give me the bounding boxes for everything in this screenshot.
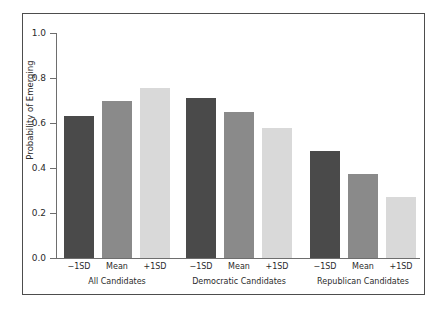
bar bbox=[348, 174, 378, 258]
bar bbox=[386, 197, 416, 258]
y-axis-tick-label: 0.8 bbox=[6, 74, 46, 83]
x-axis-tick-label: Mean bbox=[342, 262, 384, 271]
x-axis-tick-label: −1SD bbox=[58, 262, 100, 271]
bar bbox=[140, 88, 170, 258]
plot-area bbox=[56, 33, 420, 258]
y-axis-tick-label: 0.0 bbox=[6, 254, 46, 263]
x-axis-tick-label: +1SD bbox=[380, 262, 422, 271]
bar bbox=[224, 112, 254, 258]
x-axis-tick-label: Mean bbox=[218, 262, 260, 271]
figure: Probability of Emerging 0.00.20.40.60.81… bbox=[0, 0, 443, 309]
bar bbox=[64, 116, 94, 258]
y-axis-tick-mark bbox=[50, 258, 56, 259]
y-axis-tick-label: 1.0 bbox=[6, 29, 46, 38]
x-axis-tick-label: +1SD bbox=[256, 262, 298, 271]
x-axis-group-label: Republican Candidates bbox=[290, 277, 436, 286]
x-axis-spine bbox=[56, 258, 420, 259]
x-axis-tick-label: −1SD bbox=[304, 262, 346, 271]
y-axis-tick-label: 0.6 bbox=[6, 119, 46, 128]
y-axis-title: Probability of Emerging bbox=[25, 50, 35, 170]
x-axis-tick-label: −1SD bbox=[180, 262, 222, 271]
x-axis-tick-label: Mean bbox=[96, 262, 138, 271]
bar bbox=[310, 151, 340, 258]
bar bbox=[262, 128, 292, 259]
bar bbox=[102, 101, 132, 259]
y-axis-tick-label: 0.2 bbox=[6, 209, 46, 218]
y-axis-tick-label: 0.4 bbox=[6, 164, 46, 173]
x-axis-tick-label: +1SD bbox=[134, 262, 176, 271]
bar bbox=[186, 98, 216, 258]
